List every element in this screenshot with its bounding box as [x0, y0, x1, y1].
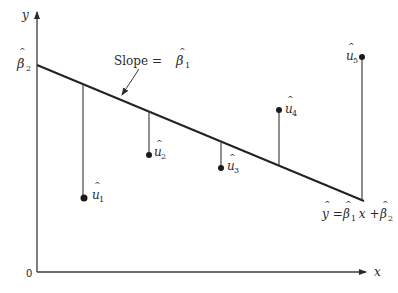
svg-text:β: β	[16, 56, 25, 71]
svg-text:^: ^	[19, 46, 26, 55]
svg-text:β: β	[379, 207, 387, 221]
svg-text:5: 5	[353, 56, 358, 65]
svg-text:3: 3	[234, 166, 239, 175]
residual-3: ^ u 3	[218, 141, 239, 175]
regression-diagram: y x 0 ^ β 2 Slope = ^ β 1 ^ u 1 ^ u 2	[0, 0, 398, 293]
x-axis: x	[37, 265, 381, 279]
regression-equation: ^ y = ^ β 1 x + ^ β 2	[321, 199, 393, 223]
data-point	[81, 195, 88, 202]
svg-text:4: 4	[292, 109, 297, 118]
x-axis-label: x	[374, 265, 381, 279]
slope-prefix: Slope =	[114, 54, 162, 68]
intercept-label: ^ β 2	[16, 46, 31, 73]
data-point	[218, 165, 224, 171]
residual-1: ^ u 1	[81, 84, 105, 204]
svg-text:2: 2	[26, 64, 31, 73]
regression-line	[37, 65, 364, 201]
y-axis-label: y	[21, 8, 29, 22]
data-point	[276, 107, 282, 113]
svg-text:2: 2	[388, 214, 393, 223]
svg-text:1: 1	[185, 61, 190, 70]
data-point	[359, 54, 365, 60]
residual-5: ^ u 5	[346, 41, 365, 200]
slope-annotation: Slope = ^ β 1	[114, 46, 190, 95]
residual-4: ^ u 4	[276, 94, 297, 165]
svg-text:β: β	[175, 53, 184, 68]
svg-text:y: y	[321, 207, 329, 221]
origin-label: 0	[26, 268, 32, 279]
data-point	[146, 152, 152, 158]
slope-arrow	[122, 69, 139, 95]
svg-text:1: 1	[99, 195, 104, 204]
svg-text:2: 2	[161, 152, 166, 161]
svg-text:β: β	[342, 207, 350, 221]
